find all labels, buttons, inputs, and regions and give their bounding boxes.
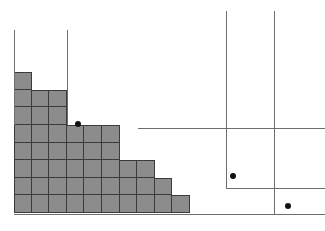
dots-layer xyxy=(0,0,325,231)
dot-2 xyxy=(230,173,237,180)
dot-1 xyxy=(75,121,82,128)
diagram-canvas xyxy=(0,0,325,231)
dot-3 xyxy=(285,203,292,210)
